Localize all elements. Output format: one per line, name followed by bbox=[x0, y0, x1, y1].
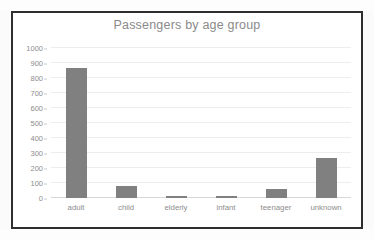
y-axis-tick-label: 900 bbox=[30, 59, 43, 68]
scan-margin-bottom bbox=[0, 229, 374, 240]
x-axis-tick-label: teenager bbox=[261, 203, 292, 212]
bar-child bbox=[116, 186, 137, 198]
x-axis-tick-label: child bbox=[118, 203, 134, 212]
bar-teenager bbox=[266, 189, 287, 198]
bar-adult bbox=[66, 68, 87, 199]
y-axis-tick-label: 0 bbox=[39, 194, 43, 203]
y-axis-tick-label: 700 bbox=[30, 89, 43, 98]
y-axis-tick-label: 500 bbox=[30, 119, 43, 128]
chart-screenshot: Passengers by age group 0100200300400500… bbox=[0, 0, 374, 240]
x-axis-tick-label: adult bbox=[68, 203, 85, 212]
y-axis-tick-label: 100 bbox=[30, 179, 43, 188]
y-axis: 01002003004005006007008009001000 bbox=[13, 48, 47, 198]
x-axis-tick-label: infant bbox=[216, 203, 235, 212]
y-axis-tick-label: 300 bbox=[30, 149, 43, 158]
plot-area bbox=[51, 48, 351, 198]
chart-title: Passengers by age group bbox=[13, 18, 361, 32]
y-axis-tick-label: 1000 bbox=[26, 44, 43, 53]
x-axis: adultchildelderlyinfantteenagerunknown bbox=[51, 203, 351, 217]
scan-margin-top bbox=[0, 0, 374, 11]
bar-series bbox=[51, 48, 351, 198]
chart-frame: Passengers by age group 0100200300400500… bbox=[11, 11, 363, 229]
bar-elderly bbox=[166, 196, 187, 198]
y-axis-tick-label: 200 bbox=[30, 164, 43, 173]
x-axis-tick-label: unknown bbox=[310, 203, 341, 212]
bar-unknown bbox=[316, 158, 337, 198]
bar-infant bbox=[216, 196, 237, 198]
x-axis-tick-label: elderly bbox=[165, 203, 188, 212]
y-axis-tick-label: 800 bbox=[30, 74, 43, 83]
y-axis-tick-label: 400 bbox=[30, 134, 43, 143]
y-axis-tick-label: 600 bbox=[30, 104, 43, 113]
chart-inner: Passengers by age group 0100200300400500… bbox=[13, 13, 361, 227]
